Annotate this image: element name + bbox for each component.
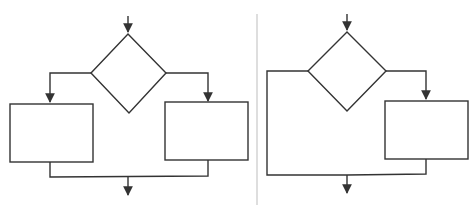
right-flowchart (267, 14, 468, 193)
right-merge-line (347, 159, 426, 175)
left-true-branch-arrow (50, 73, 91, 102)
left-process-box-true (10, 104, 93, 162)
flowchart-canvas (0, 0, 474, 205)
right-true-branch-arrow (386, 71, 426, 99)
left-false-branch-arrow (166, 73, 208, 101)
left-flowchart (10, 16, 248, 195)
left-decision-diamond (91, 34, 166, 113)
right-process-box (385, 101, 468, 159)
right-decision-diamond (308, 32, 386, 111)
flowchart-svg (0, 0, 474, 205)
left-process-box-false (165, 102, 248, 160)
